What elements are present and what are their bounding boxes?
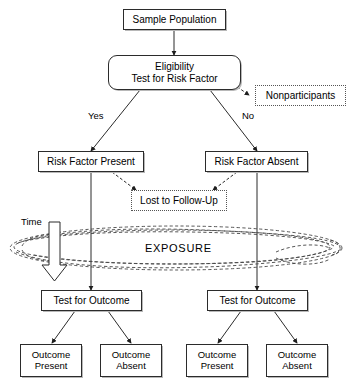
node-test-for-outcome-left[interactable]: Test for Outcome: [41, 290, 142, 311]
outcome-present-left-line1: Outcome: [32, 350, 71, 361]
node-outcome-present-left[interactable]: Outcome Present: [20, 344, 82, 377]
node-eligibility-test[interactable]: Eligibility Test for Risk Factor: [108, 55, 241, 90]
node-lost-to-follow-up[interactable]: Lost to Follow-Up: [131, 190, 227, 211]
time-label: Time: [21, 216, 42, 227]
edge-label-yes: Yes: [88, 110, 104, 121]
outcome-present-right-line1: Outcome: [198, 350, 237, 361]
edge-risk-present-to-lost: [112, 172, 136, 190]
outcome-absent-right-line2: Absent: [282, 361, 312, 372]
node-nonparticipants[interactable]: Nonparticipants: [255, 85, 346, 106]
node-sample-population[interactable]: Sample Population: [123, 9, 226, 30]
outcome-absent-left-line1: Outcome: [112, 350, 151, 361]
node-outcome-present-right[interactable]: Outcome Present: [186, 344, 248, 377]
edge-test-right-to-present: [218, 311, 241, 343]
flowchart-canvas: Sample Population Eligibility Test for R…: [0, 0, 349, 388]
outcome-present-left-line2: Present: [35, 361, 68, 372]
nonparticipants-label: Nonparticipants: [266, 90, 335, 101]
test-for-outcome-right-label: Test for Outcome: [219, 295, 295, 306]
outcome-absent-right-line1: Outcome: [278, 350, 317, 361]
test-for-outcome-left-label: Test for Outcome: [53, 295, 129, 306]
time-arrow-shape: [42, 222, 67, 281]
exposure-label: EXPOSURE: [145, 242, 212, 254]
risk-factor-absent-label: Risk Factor Absent: [215, 156, 299, 167]
edge-label-no: No: [242, 110, 254, 121]
node-outcome-absent-left[interactable]: Outcome Absent: [100, 344, 162, 377]
lost-to-follow-up-label: Lost to Follow-Up: [140, 195, 218, 206]
node-risk-factor-absent[interactable]: Risk Factor Absent: [205, 151, 308, 172]
edge-test-left-to-absent: [108, 311, 131, 343]
sample-population-label: Sample Population: [133, 14, 217, 25]
eligibility-label-line1: Eligibility: [155, 61, 194, 72]
risk-factor-present-label: Risk Factor Present: [47, 156, 135, 167]
edge-test-left-to-present: [52, 311, 75, 343]
node-outcome-absent-right[interactable]: Outcome Absent: [266, 344, 328, 377]
eligibility-label-line2: Test for Risk Factor: [131, 73, 217, 84]
outcome-present-right-line2: Present: [201, 361, 234, 372]
node-test-for-outcome-right[interactable]: Test for Outcome: [207, 290, 308, 311]
edge-risk-absent-to-lost: [213, 172, 237, 190]
node-risk-factor-present[interactable]: Risk Factor Present: [38, 151, 144, 172]
edge-test-right-to-absent: [274, 311, 297, 343]
outcome-absent-left-line2: Absent: [116, 361, 146, 372]
